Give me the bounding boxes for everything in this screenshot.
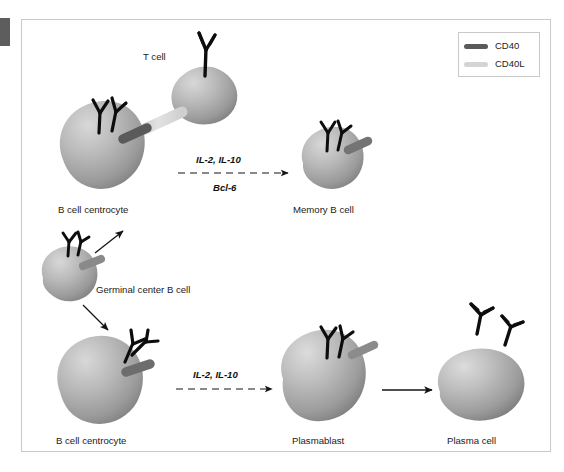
label-b-cell-centrocyte-top: B cell centrocyte <box>58 205 128 215</box>
arrow-label-il2-il10-top: IL-2, IL-10 <box>196 155 241 165</box>
cd40l-swatch-icon <box>464 62 488 67</box>
legend-label-cd40: CD40 <box>495 41 519 51</box>
label-germinal-center-b-cell: Germinal center B cell <box>96 285 190 295</box>
page-edge-tab <box>0 18 10 46</box>
arrow-label-bcl6: Bcl-6 <box>213 183 236 193</box>
cd40-swatch-icon <box>464 44 488 49</box>
label-t-cell: T cell <box>143 52 166 62</box>
legend-item-cd40: CD40 <box>464 37 535 55</box>
figure-panel <box>21 19 551 452</box>
label-memory-b-cell: Memory B cell <box>293 205 354 215</box>
label-b-cell-centrocyte-bottom: B cell centrocyte <box>56 436 126 446</box>
figure-root: CD40 CD40L T cell B cell centrocyte Memo… <box>0 0 564 472</box>
legend: CD40 CD40L <box>458 32 540 77</box>
arrow-label-il2-il10-bottom: IL-2, IL-10 <box>193 370 238 380</box>
label-plasma-cell: Plasma cell <box>447 436 496 446</box>
legend-item-cd40l: CD40L <box>464 55 535 73</box>
legend-label-cd40l: CD40L <box>495 59 525 69</box>
label-plasmablast: Plasmablast <box>292 436 344 446</box>
